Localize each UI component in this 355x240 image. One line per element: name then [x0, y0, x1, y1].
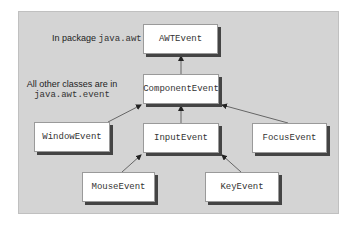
arrow-key-to-input: [222, 155, 241, 172]
event-note-line1: All other classes are in: [26, 79, 118, 90]
event-package-note: All other classes are in java.awt.event: [26, 79, 118, 101]
node-window-event: WindowEvent: [34, 122, 110, 152]
arrow-mouse-to-input: [122, 155, 141, 172]
node-key-event: KeyEvent: [205, 172, 279, 202]
awt-package-note: In package java.awt: [52, 33, 142, 45]
node-focus-event: FocusEvent: [252, 123, 327, 153]
arrow-window-to-component: [108, 105, 141, 122]
awt-note-package: java.awt: [99, 34, 142, 44]
node-mouse-event: MouseEvent: [82, 172, 155, 202]
node-awt-event: AWTEvent: [143, 24, 218, 54]
node-component-event: ComponentEvent: [143, 74, 219, 104]
arrow-focus-to-component: [222, 105, 288, 123]
event-note-package: java.awt.event: [26, 90, 118, 101]
node-input-event: InputEvent: [143, 123, 219, 153]
awt-note-prefix: In package: [52, 33, 99, 43]
